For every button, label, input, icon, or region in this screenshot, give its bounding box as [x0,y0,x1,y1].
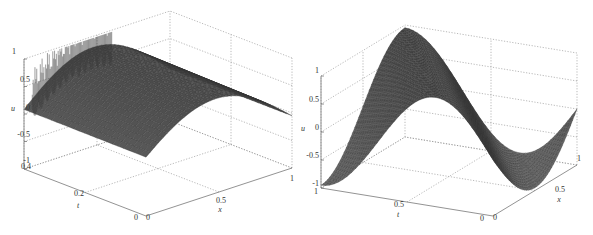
right-plot-canvas: 1 0.5 0 -0.5 -1 u 1 0.5 t 0 0 0.5 x 1 [297,0,593,235]
right-ztick-0: 0 [315,123,319,132]
right-ztick-1: 1 [315,66,319,75]
right-ytick-0.5: 0.5 [394,200,404,209]
left-xtick-0: 0 [146,213,150,222]
right-zlabel: u [301,124,305,133]
left-ztick-0: 0 [26,103,30,112]
right-ztick-0.5: 0.5 [309,95,319,104]
left-ytick-0.2: 0.2 [74,189,84,198]
right-xlabel: x [556,195,561,204]
right-xtick-0: 0 [493,213,497,222]
left-ztick-0.5: 0.5 [20,75,30,84]
left-surface-plot: 1 0.5 0 -0.5 -1 u 0.4 0.2 t 0 0 0.5 x 1 [0,0,296,235]
left-ztick-neg0.5: -0.5 [17,130,30,139]
right-ylabel: t [397,210,400,219]
left-surface-mesh [24,32,292,157]
left-xlabel: x [217,205,222,214]
right-surface-mesh [321,28,577,190]
left-plot-canvas: 1 0.5 0 -0.5 -1 u 0.4 0.2 t 0 0 0.5 x 1 [0,0,296,235]
right-ytick-0: 0 [480,214,484,223]
right-xtick-1: 1 [577,154,581,163]
left-ytick-0: 0 [134,213,138,222]
right-xtick-0.5: 0.5 [555,185,565,194]
left-ylabel: t [77,201,80,210]
right-surface-plot: 1 0.5 0 -0.5 -1 u 1 0.5 t 0 0 0.5 x 1 [297,0,593,235]
left-zlabel: u [11,104,15,113]
left-ztick-1: 1 [12,47,16,56]
figure: 1 0.5 0 -0.5 -1 u 0.4 0.2 t 0 0 0.5 x 1 … [0,0,593,235]
left-xtick-0.5: 0.5 [216,196,226,205]
left-ytick-0.4: 0.4 [21,162,31,171]
right-ytick-1: 1 [314,187,318,196]
left-xtick-1: 1 [290,174,294,183]
right-ztick-neg0.5: -0.5 [306,151,319,160]
